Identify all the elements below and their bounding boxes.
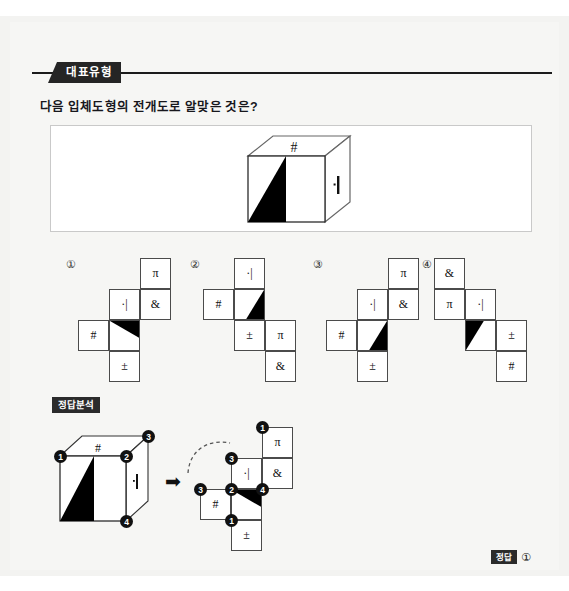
net-cell: ·| bbox=[465, 289, 496, 320]
workbook-page: 대표유형 다음 입체도형의 전개도로 알맞은 것은? # bbox=[0, 16, 569, 576]
net-cell: ·| bbox=[357, 289, 388, 320]
net-cell: # bbox=[326, 320, 357, 351]
net-vertex-badge-2: 2 bbox=[225, 483, 238, 496]
option-marker-2: ② bbox=[190, 258, 200, 270]
page-inner: 대표유형 다음 입체도형의 전개도로 알맞은 것은? # bbox=[10, 22, 559, 570]
net-cell-shaded bbox=[109, 320, 140, 351]
solid-figure-cube: # bbox=[228, 134, 358, 226]
answer-value: ① bbox=[521, 551, 531, 564]
net-cell: & bbox=[388, 289, 419, 320]
net-cell: π bbox=[388, 258, 419, 289]
net-cell: ·| bbox=[234, 258, 265, 289]
question-text: 다음 입체도형의 전개도로 알맞은 것은? bbox=[40, 96, 258, 115]
vertex-badge-1: 1 bbox=[54, 450, 67, 463]
option-marker-4: ④ bbox=[422, 258, 432, 270]
net-vertex-badge-1: 1 bbox=[256, 421, 269, 434]
net-cell: & bbox=[140, 289, 171, 320]
vertex-badge-2: 2 bbox=[120, 450, 133, 463]
net-vertex-badge-1b: 1 bbox=[225, 514, 238, 527]
net-vertex-badge-3b: 3 bbox=[194, 483, 207, 496]
net-cell: ± bbox=[496, 320, 527, 351]
vertex-badge-3: 3 bbox=[142, 430, 155, 443]
net-cell: ·| bbox=[109, 289, 140, 320]
vertex-badge-4: 4 bbox=[120, 515, 133, 528]
net-cell: π bbox=[265, 320, 296, 351]
svg-text:#: # bbox=[291, 140, 298, 155]
net-cell: π bbox=[434, 289, 465, 320]
header-tag: 대표유형 bbox=[57, 62, 121, 83]
analysis-cube: # 1 2 3 4 bbox=[50, 426, 162, 530]
svg-text:#: # bbox=[95, 441, 101, 455]
net-cell: & bbox=[265, 351, 296, 382]
answer-tag-label: 정답 bbox=[491, 550, 517, 564]
section-header: 대표유형 bbox=[32, 62, 552, 84]
arrow-icon: ➡ bbox=[165, 472, 181, 491]
net-cell: ± bbox=[234, 320, 265, 351]
net-vertex-badge-4: 4 bbox=[256, 483, 269, 496]
answer-badge: 정답 ① bbox=[491, 550, 531, 564]
net-cell: # bbox=[203, 289, 234, 320]
net-cell: # bbox=[496, 351, 527, 382]
analysis-tag: 정답분석 bbox=[52, 397, 100, 413]
net-cell: ± bbox=[357, 351, 388, 382]
net-cell: ± bbox=[109, 351, 140, 382]
net-cell: π bbox=[140, 258, 171, 289]
net-cell: & bbox=[434, 258, 465, 289]
net-cell-shaded bbox=[357, 320, 388, 351]
option-marker-1: ① bbox=[66, 258, 76, 270]
net-cell: # bbox=[78, 320, 109, 351]
net-cell-shaded bbox=[465, 320, 496, 351]
question-figure-box: # bbox=[50, 125, 532, 232]
net-vertex-badge-3a: 3 bbox=[225, 452, 238, 465]
option-marker-3: ③ bbox=[313, 258, 323, 270]
net-cell-shaded bbox=[234, 289, 265, 320]
